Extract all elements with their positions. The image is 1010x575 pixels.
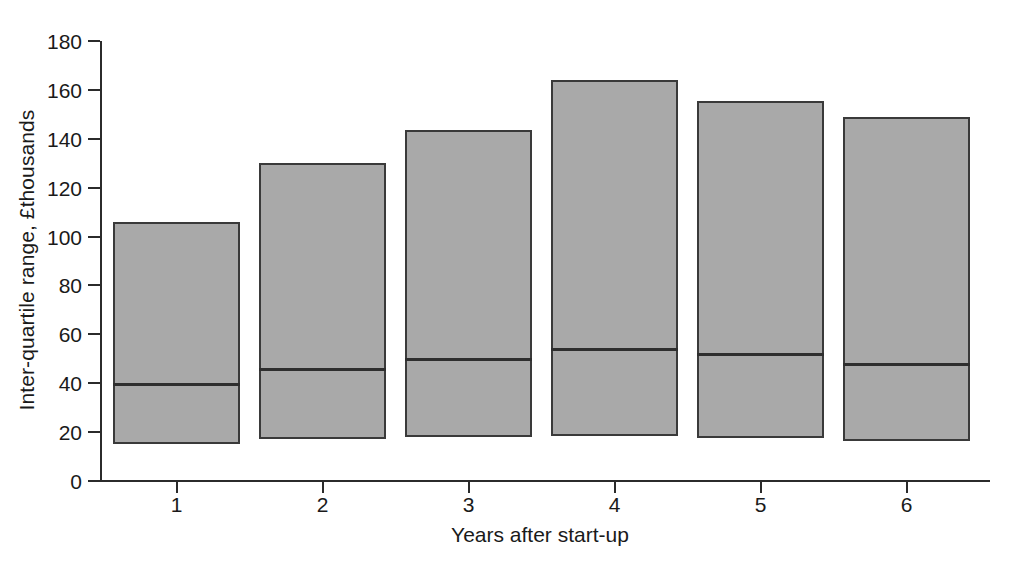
x-axis-tick-label: 5 (731, 493, 791, 517)
x-axis-tick-label: 4 (585, 493, 645, 517)
y-axis-tick-label: 180 (4, 31, 82, 52)
y-axis-tick (88, 89, 100, 91)
quartile-bar (843, 117, 970, 441)
x-axis-tick-label: 1 (147, 493, 207, 517)
y-axis-title: Inter-quartile range, £thousands (10, 40, 44, 480)
x-axis-tick (760, 482, 762, 493)
median-line (551, 348, 678, 351)
y-axis-tick-label: 20 (4, 422, 82, 443)
x-axis-tick (468, 482, 470, 493)
y-axis-tick (88, 480, 100, 482)
median-line (843, 363, 970, 366)
y-axis-line (100, 41, 102, 482)
y-axis-tick (88, 284, 100, 286)
x-axis-tick-label: 2 (293, 493, 353, 517)
y-axis-tick (88, 40, 100, 42)
y-axis-tick-label: 80 (4, 275, 82, 296)
y-axis-tick (88, 382, 100, 384)
x-axis-tick (906, 482, 908, 493)
y-axis-tick-label: 120 (4, 177, 82, 198)
y-axis-tick-label: 140 (4, 128, 82, 149)
median-line (405, 358, 532, 361)
y-axis-tick-label: 0 (4, 471, 82, 492)
x-axis-tick (322, 482, 324, 493)
y-axis-tick (88, 431, 100, 433)
y-axis-tick (88, 236, 100, 238)
y-axis-tick-label: 60 (4, 324, 82, 345)
x-axis-tick-label: 6 (877, 493, 937, 517)
y-axis-tick (88, 138, 100, 140)
median-line (697, 353, 824, 356)
x-axis-title: Years after start-up (100, 523, 980, 547)
quartile-bar (551, 80, 678, 436)
y-axis-tick-label: 160 (4, 79, 82, 100)
median-line (113, 383, 240, 386)
y-axis-tick (88, 187, 100, 189)
x-axis-tick (176, 482, 178, 493)
quartile-bar (113, 222, 240, 444)
chart-page: Inter-quartile range, £thousands 0204060… (0, 0, 1010, 575)
x-axis-line (100, 480, 990, 482)
quartile-bar (697, 101, 824, 438)
quartile-bar (405, 130, 532, 437)
quartile-bar (259, 163, 386, 439)
median-line (259, 368, 386, 371)
y-axis-tick-label: 40 (4, 373, 82, 394)
x-axis-tick-label: 3 (439, 493, 499, 517)
y-axis-tick-label: 100 (4, 226, 82, 247)
y-axis-tick (88, 333, 100, 335)
x-axis-tick (614, 482, 616, 493)
